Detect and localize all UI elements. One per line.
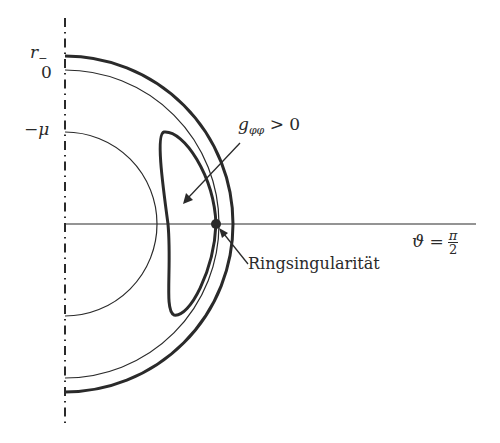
label-theta: ϑ =π2 <box>412 229 458 256</box>
ring-arrow <box>224 234 248 264</box>
ring-singularity-dot <box>211 219 221 229</box>
label-zero: 0 <box>41 62 52 82</box>
label-ring-singularity: Ringsingularität <box>248 254 380 273</box>
label-gphiphi: gφφ > 0 <box>238 114 300 137</box>
label-minus-mu: −μ <box>24 119 49 139</box>
kerr-diagram <box>0 0 500 443</box>
gphiphi-arrow <box>188 143 240 198</box>
